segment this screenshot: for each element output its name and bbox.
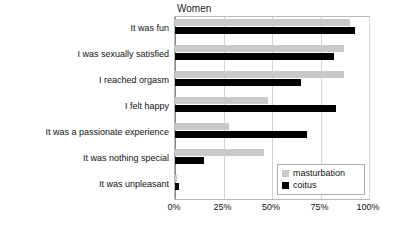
category-label: I reached orgasm [0, 75, 169, 86]
legend-label-coitus: coitus [293, 180, 317, 190]
x-axis-tick-labels: 0%25%50%75%100% [0, 201, 395, 217]
category-label: It was unpleasant [0, 179, 169, 190]
legend-item-masturbation: masturbation [282, 167, 361, 179]
category-label: It was fun [0, 23, 169, 34]
x-tick-label: 100% [356, 201, 379, 213]
x-tick-label: 75% [310, 201, 328, 213]
bar-chart: Women It was funI was sexually satisfied… [0, 0, 395, 239]
category-label: I was sexually satisfied [0, 49, 169, 60]
category-label: I felt happy [0, 101, 169, 112]
chart-legend: masturbation coitus [277, 164, 365, 195]
category-label: It was nothing special [0, 153, 169, 164]
legend-item-coitus: coitus [282, 179, 361, 191]
x-tick-label: 0% [167, 201, 180, 213]
legend-swatch-icon-coitus [282, 182, 289, 189]
legend-label-masturbation: masturbation [293, 168, 345, 178]
chart-title: Women [177, 3, 211, 15]
x-tick-label: 25% [213, 201, 231, 213]
category-label: It was a passionate experience [0, 127, 169, 138]
legend-swatch-icon-masturbation [282, 170, 289, 177]
x-tick-label: 50% [262, 201, 280, 213]
